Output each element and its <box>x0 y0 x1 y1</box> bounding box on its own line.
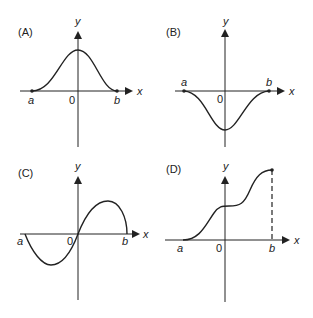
panel-b: (B) y x 0 a b <box>166 15 295 147</box>
y-label: y <box>74 15 82 27</box>
a-label: a <box>181 76 187 88</box>
figure-canvas: (A) y x 0 a b (B) y x 0 a b (C) y x 0 a … <box>0 0 313 318</box>
curve <box>32 50 117 91</box>
panel-label: (A) <box>18 26 33 38</box>
panel-a: (A) y x 0 a b <box>18 15 143 147</box>
curve <box>25 201 127 265</box>
x-label: x <box>293 234 300 246</box>
panel-label: (B) <box>166 26 181 38</box>
y-label: y <box>222 15 230 27</box>
origin-label: 0 <box>216 242 222 254</box>
panel-d: (D) y x 0 a b <box>165 160 300 302</box>
b-label: b <box>122 235 128 247</box>
origin-label: 0 <box>67 235 73 247</box>
a-label: a <box>17 235 23 247</box>
a-label: a <box>28 94 34 106</box>
point-a <box>182 89 186 93</box>
y-label: y <box>74 160 82 172</box>
panel-label: (D) <box>166 163 181 175</box>
point-a <box>30 89 34 93</box>
x-label: x <box>142 228 149 240</box>
curve <box>183 170 272 240</box>
b-label: b <box>114 94 120 106</box>
x-label: x <box>136 85 143 97</box>
origin-label: 0 <box>217 93 223 105</box>
origin-label: 0 <box>69 94 75 106</box>
curve <box>184 91 269 130</box>
panel-label: (C) <box>18 167 33 179</box>
b-label: b <box>269 242 275 254</box>
point-b <box>115 89 119 93</box>
a-label: a <box>177 242 183 254</box>
b-label: b <box>266 76 272 88</box>
y-label: y <box>222 160 230 172</box>
point-b <box>267 89 271 93</box>
panel-c: (C) y x 0 a b <box>17 160 149 300</box>
x-label: x <box>288 85 295 97</box>
point-b <box>270 168 274 172</box>
